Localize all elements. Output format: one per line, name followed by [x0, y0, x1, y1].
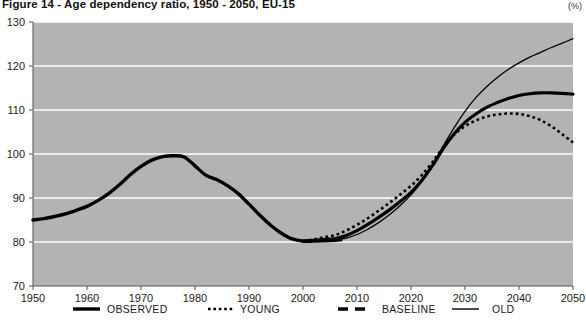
x-tick-label: 1960 — [75, 292, 99, 304]
legend-item-observed: OBSERVED — [73, 303, 168, 315]
legend-item-young: YOUNG — [208, 303, 280, 315]
x-tick-label: 2010 — [345, 292, 369, 304]
chart-legend: OBSERVEDYOUNGBASELINEOLD — [73, 303, 515, 315]
y-tick-label: 90 — [13, 192, 25, 204]
legend-item-baseline: BASELINE — [338, 303, 436, 315]
legend-label: YOUNG — [240, 303, 280, 315]
x-tick-label: 2050 — [561, 292, 585, 304]
legend-item-old: OLD — [452, 303, 515, 315]
legend-label: BASELINE — [382, 303, 436, 315]
x-tick-label: 1980 — [183, 292, 207, 304]
x-axis-tick-labels: 1950196019701980199020002010202020302040… — [21, 286, 585, 304]
y-tick-label: 70 — [13, 280, 25, 292]
y-tick-label: 100 — [7, 148, 25, 160]
age-dependency-ratio-chart: 708090100110120130 195019601970198019902… — [0, 0, 586, 323]
x-tick-label: 2000 — [291, 292, 315, 304]
x-tick-label: 2030 — [453, 292, 477, 304]
y-tick-label: 120 — [7, 60, 25, 72]
legend-label: OLD — [492, 303, 515, 315]
y-axis-tick-labels: 708090100110120130 — [7, 16, 33, 292]
y-tick-label: 130 — [7, 16, 25, 28]
y-tick-label: 110 — [7, 104, 25, 116]
x-tick-label: 1950 — [21, 292, 45, 304]
legend-label: OBSERVED — [107, 303, 168, 315]
y-tick-label: 80 — [13, 236, 25, 248]
figure-container: Figure 14 - Age dependency ratio, 1950 -… — [0, 0, 586, 323]
